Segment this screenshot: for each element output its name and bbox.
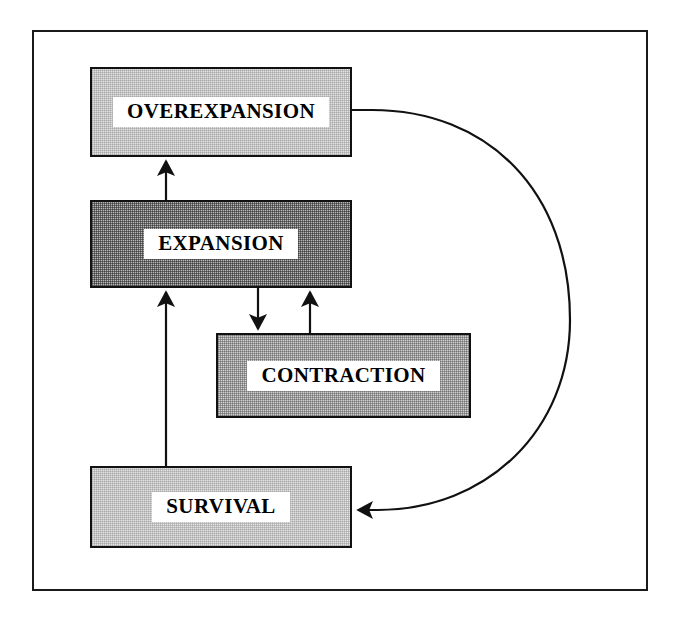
node-survival[interactable]: SURVIVAL [90, 466, 352, 548]
node-expansion[interactable]: EXPANSION [90, 200, 352, 288]
node-survival-band: SURVIVAL [152, 492, 289, 522]
node-overexpansion-band: OVEREXPANSION [113, 97, 329, 127]
node-expansion-band: EXPANSION [144, 229, 298, 259]
node-contraction-band: CONTRACTION [247, 361, 439, 391]
diagram-canvas: OVEREXPANSION EXPANSION CONTRACTION SURV… [0, 0, 677, 620]
node-survival-label: SURVIVAL [166, 494, 275, 518]
node-contraction[interactable]: CONTRACTION [216, 333, 471, 418]
node-overexpansion-label: OVEREXPANSION [127, 99, 315, 123]
node-contraction-label: CONTRACTION [261, 363, 425, 387]
node-expansion-label: EXPANSION [158, 231, 284, 255]
node-overexpansion[interactable]: OVEREXPANSION [90, 67, 352, 157]
